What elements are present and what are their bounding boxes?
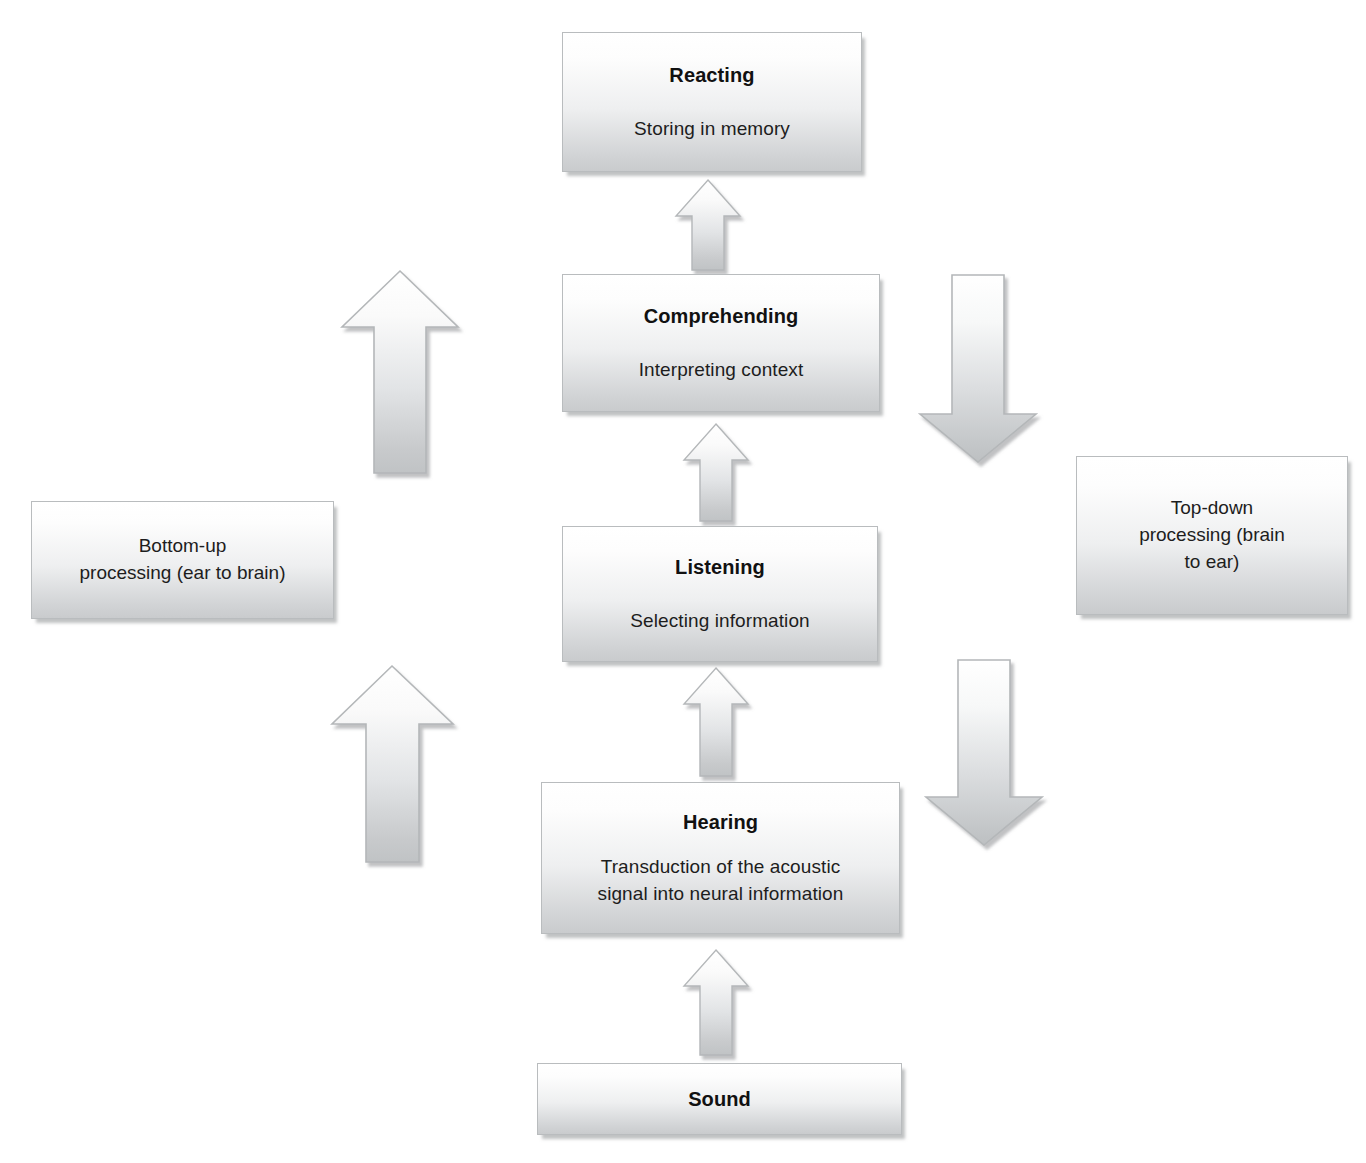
box-reacting-subtitle: Storing in memory bbox=[634, 116, 790, 143]
box-sound-title: Sound bbox=[688, 1085, 751, 1113]
box-comprehending-subtitle: Interpreting context bbox=[639, 357, 804, 384]
box-bottom-up-processing[interactable]: Bottom-up processing (ear to brain) bbox=[31, 501, 334, 619]
box-hearing-title: Hearing bbox=[683, 808, 758, 836]
box-hearing[interactable]: Hearing Transduction of the acoustic sig… bbox=[541, 782, 900, 934]
arrow-bottom-up-upper bbox=[342, 271, 458, 473]
box-comprehending[interactable]: Comprehending Interpreting context bbox=[562, 274, 880, 412]
arrow-top-down-lower bbox=[926, 660, 1042, 845]
arrow-comprehending-to-reacting bbox=[676, 180, 740, 270]
box-hearing-subtitle-line1: Transduction of the acoustic bbox=[601, 854, 841, 881]
box-reacting-title: Reacting bbox=[669, 61, 754, 89]
box-top-down-processing[interactable]: Top-down processing (brain to ear) bbox=[1076, 456, 1348, 615]
arrow-sound-to-hearing bbox=[684, 950, 748, 1055]
box-top-down-line2: processing (brain bbox=[1139, 522, 1285, 549]
box-bottom-up-line1: Bottom-up bbox=[139, 533, 227, 560]
box-reacting[interactable]: Reacting Storing in memory bbox=[562, 32, 862, 172]
arrow-top-down-upper bbox=[920, 275, 1036, 462]
arrow-bottom-up-lower bbox=[332, 666, 453, 862]
box-listening-title: Listening bbox=[675, 553, 765, 581]
box-sound[interactable]: Sound bbox=[537, 1063, 902, 1135]
listening-process-diagram: Reacting Storing in memory Comprehending… bbox=[0, 0, 1366, 1163]
box-top-down-line1: Top-down bbox=[1171, 495, 1253, 522]
arrow-listening-to-comprehending bbox=[684, 424, 748, 521]
box-top-down-line3: to ear) bbox=[1185, 549, 1240, 576]
box-listening[interactable]: Listening Selecting information bbox=[562, 526, 878, 662]
box-bottom-up-line2: processing (ear to brain) bbox=[80, 560, 286, 587]
arrow-hearing-to-listening bbox=[684, 668, 748, 776]
box-comprehending-title: Comprehending bbox=[644, 302, 799, 330]
box-hearing-subtitle-line2: signal into neural information bbox=[598, 881, 844, 908]
box-listening-subtitle: Selecting information bbox=[630, 608, 810, 635]
